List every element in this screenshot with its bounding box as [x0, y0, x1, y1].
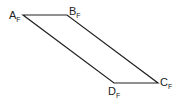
vertex-label-d: DF — [108, 86, 120, 99]
parallelogram-outline — [23, 15, 158, 83]
vertex-label-b: BF — [69, 6, 81, 19]
vertex-label-a: AF — [9, 10, 21, 23]
vertex-label-c: CF — [160, 77, 172, 90]
parallelogram-diagram: AF BF CF DF — [0, 0, 177, 101]
parallelogram-shape — [0, 0, 177, 101]
